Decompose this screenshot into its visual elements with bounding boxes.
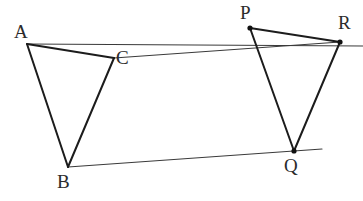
vertex-label-A: A xyxy=(14,22,28,41)
vertex-label-Q: Q xyxy=(284,156,298,175)
segment-R-Q xyxy=(294,42,340,151)
segment-A-C xyxy=(27,44,114,58)
segment-A-B xyxy=(27,44,68,167)
triangle-PQR xyxy=(250,28,340,151)
vertex-label-B: B xyxy=(57,172,70,191)
vertex-label-R: R xyxy=(338,13,351,32)
triangle-ABC xyxy=(27,44,114,167)
vertex-label-P: P xyxy=(240,3,251,22)
figure-canvas xyxy=(0,0,363,201)
vertex-dot-P xyxy=(247,25,252,30)
vertex-label-C: C xyxy=(116,48,129,67)
vertex-dot-Q xyxy=(291,148,296,153)
segment-P-R xyxy=(250,28,340,42)
segment-C-B xyxy=(68,58,114,167)
vertex-dots-group xyxy=(247,25,342,153)
vertex-dot-R xyxy=(337,39,342,44)
geometry-diagram: A B C P Q R xyxy=(0,0,363,201)
